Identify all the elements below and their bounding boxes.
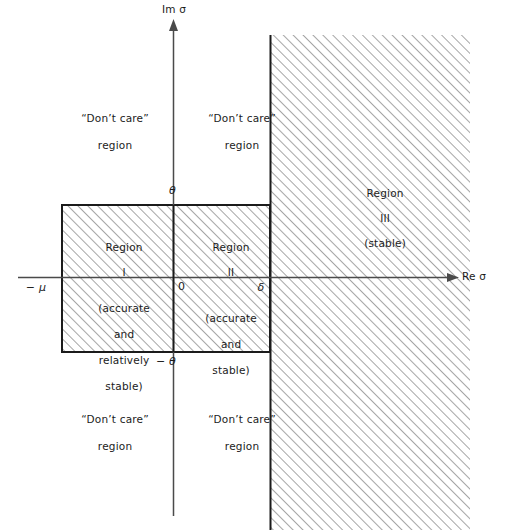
region-2-shape (173, 205, 270, 352)
stability-region-diagram: Im σ Re σ θ − θ − μ δ 0 Region I (accura… (0, 0, 509, 530)
region-1-shape (62, 205, 173, 352)
diagram-canvas (0, 0, 509, 530)
imaginary-axis-arrowhead (169, 19, 178, 31)
region-3-shape (270, 35, 509, 530)
